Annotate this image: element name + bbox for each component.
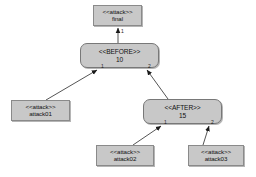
node-final[interactable]: <<attack>> final: [93, 5, 142, 26]
node-after-stereotype: <<AFTER>>: [164, 104, 200, 111]
edge-attack01-to-before: [46, 70, 97, 100]
node-final-label: final: [112, 16, 123, 23]
node-attack01-label: attack01: [29, 111, 52, 118]
port-label-after-2: 2: [211, 120, 214, 125]
node-before-stereotype: <<BEFORE>>: [99, 48, 141, 55]
port-label-after-1: 1: [164, 120, 167, 125]
node-after-label: 15: [179, 112, 186, 119]
port-label-before-final: 1: [121, 29, 124, 34]
edge-after-to-before: [147, 70, 168, 99]
edge-attack02-to-after: [133, 126, 161, 145]
edge-attack03-to-after: [203, 126, 209, 145]
node-before-label: 10: [116, 56, 123, 63]
node-attack03-label: attack03: [205, 156, 228, 163]
port-label-before-1: 1: [101, 64, 104, 69]
diagram-canvas: <<attack>> final <<BEFORE>> 10 <<AFTER>>…: [0, 0, 256, 177]
port-label-before-2: 2: [148, 64, 151, 69]
node-attack02-label: attack02: [114, 156, 137, 163]
node-attack03[interactable]: <<attack>> attack03: [188, 145, 244, 166]
node-attack02[interactable]: <<attack>> attack02: [96, 145, 154, 166]
node-attack01[interactable]: <<attack>> attack01: [11, 100, 70, 121]
